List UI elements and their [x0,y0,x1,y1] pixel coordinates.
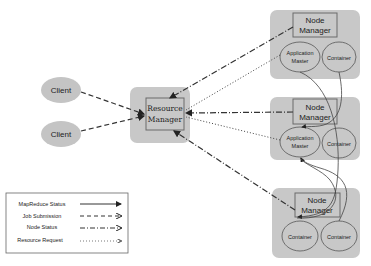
container-label: Container [288,234,312,240]
client-label: Client [51,86,72,95]
container-label: Container [327,234,351,240]
client-label: Client [51,130,72,139]
legend-label-resource-request: Resource Request [17,237,63,243]
resource-manager-node: Resource Manager [130,87,190,143]
resource-request-arrow [186,55,280,110]
app-master-label-1: Application [287,50,314,56]
node-manager-label-1: Node [305,103,325,112]
legend-label-mapreduce-status: MapReduce Status [19,201,66,207]
node-manager-label-2: Manager [299,113,331,122]
node-manager-label-1: Node [307,196,327,205]
node-manager-label-2: Manager [299,26,331,35]
legend-label-node-status: Node Status [27,224,58,230]
container-label: Container [327,55,351,61]
legend-label-job-submission: Job Submission [23,213,62,219]
resource-manager-label-1: Resource [147,104,183,113]
node-manager-2: Node Manager Application Master Containe… [270,97,360,160]
client-node-2: Client [41,121,81,147]
app-master-label-2: Master [292,58,309,64]
resource-manager-label-2: Manager [148,115,183,124]
node-manager-1: Node Manager Application Master Containe… [270,10,360,79]
node-manager-label-1: Node [305,16,325,25]
legend: MapReduce Status Job Submission Node Sta… [6,193,128,253]
yarn-diagram: Client Client Resource Manager Node Mana… [0,0,371,266]
resource-request-arrow [186,117,280,140]
client-node-1: Client [41,77,81,103]
app-master-label-1: Application [287,135,314,141]
app-master-label-2: Master [292,143,309,149]
container-label: Container [327,141,351,147]
